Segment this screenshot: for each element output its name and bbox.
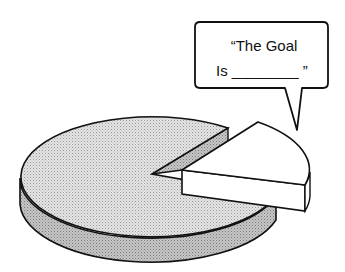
speech-bubble: “The Goal Is ________ ” bbox=[195, 22, 328, 130]
callout-line-2: Is ________ ” bbox=[216, 62, 308, 79]
pie-diagram: “The Goal Is ________ ” bbox=[0, 0, 345, 272]
callout-line-1: “The Goal bbox=[231, 37, 298, 54]
